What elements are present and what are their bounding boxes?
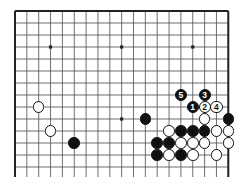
move-marker-4[interactable]: 4	[210, 101, 222, 113]
stone-white[interactable]	[211, 149, 223, 161]
stone-black[interactable]	[68, 137, 80, 149]
move-number-label: 2	[202, 103, 207, 112]
stone-white[interactable]	[223, 125, 235, 137]
stone-black[interactable]	[175, 125, 187, 137]
stone-white[interactable]	[187, 149, 199, 161]
stone-black[interactable]	[187, 125, 199, 137]
move-number-label: 1	[190, 103, 195, 112]
move-marker-1[interactable]: 1	[187, 101, 199, 113]
stone-black[interactable]	[199, 125, 211, 137]
star-point	[191, 45, 194, 48]
stone-black[interactable]	[223, 113, 235, 125]
stone-white[interactable]	[163, 149, 175, 161]
go-board-grid	[0, 0, 245, 177]
stone-white[interactable]	[187, 137, 199, 149]
go-diagram: 12345	[0, 0, 245, 177]
stone-white[interactable]	[163, 125, 175, 137]
move-number-label: 4	[214, 103, 219, 112]
stone-white[interactable]	[211, 125, 223, 137]
move-number-label: 3	[202, 91, 207, 100]
stone-black[interactable]	[175, 149, 187, 161]
stone-white[interactable]	[199, 137, 211, 149]
star-point	[120, 117, 123, 120]
stone-black[interactable]	[140, 113, 152, 125]
star-point	[49, 45, 52, 48]
stone-black[interactable]	[163, 137, 175, 149]
stone-white[interactable]	[223, 137, 235, 149]
stone-black[interactable]	[151, 137, 163, 149]
stone-white[interactable]	[45, 125, 57, 137]
move-number-label: 5	[179, 91, 184, 100]
move-marker-3[interactable]: 3	[199, 89, 211, 101]
star-point	[120, 45, 123, 48]
move-marker-5[interactable]: 5	[175, 89, 187, 101]
stone-black[interactable]	[151, 149, 163, 161]
stone-white[interactable]	[199, 113, 211, 125]
stone-white[interactable]	[175, 137, 187, 149]
move-marker-2[interactable]: 2	[199, 101, 211, 113]
